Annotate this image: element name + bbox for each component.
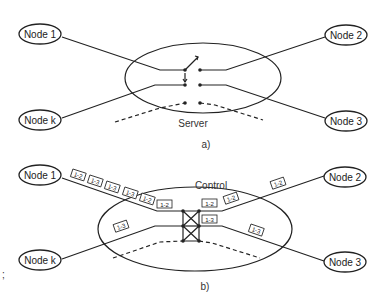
- svg-text:Node 2: Node 2: [329, 172, 362, 183]
- node-1-b: Node 1: [19, 165, 61, 185]
- node-3-b: Node 3: [324, 252, 366, 272]
- server-label: Server: [178, 118, 208, 129]
- svg-text:Node k: Node k: [24, 255, 57, 266]
- node-k-b: Node k: [19, 250, 61, 270]
- node-3-a: Node 3: [325, 111, 367, 131]
- svg-text:Node 3: Node 3: [329, 257, 362, 268]
- caption-b: b): [201, 281, 210, 292]
- svg-text:1-3: 1-3: [205, 217, 214, 223]
- caption-a: a): [202, 139, 211, 150]
- node-2-a: Node 2: [325, 25, 367, 45]
- svg-text:Node 3: Node 3: [330, 116, 363, 127]
- node-1-a: Node 1: [19, 24, 61, 44]
- svg-text:Node 1: Node 1: [24, 170, 57, 181]
- control-label: Control: [195, 180, 227, 191]
- side-mark: ;: [2, 269, 5, 280]
- svg-text:Node 1: Node 1: [24, 29, 57, 40]
- svg-text:Node k: Node k: [24, 115, 57, 126]
- packet-label-nodek: 1-3: [113, 220, 129, 232]
- svg-text:1-2: 1-2: [160, 202, 169, 208]
- svg-text:1-2: 1-2: [205, 201, 214, 207]
- node-2-b: Node 2: [324, 167, 366, 187]
- server-ellipse: [125, 43, 281, 113]
- network-diagram: Node 1 Node 2 Node k Node 3 Server a) 1-…: [0, 0, 385, 302]
- node-k-a: Node k: [19, 110, 61, 130]
- svg-text:Node 2: Node 2: [330, 30, 363, 41]
